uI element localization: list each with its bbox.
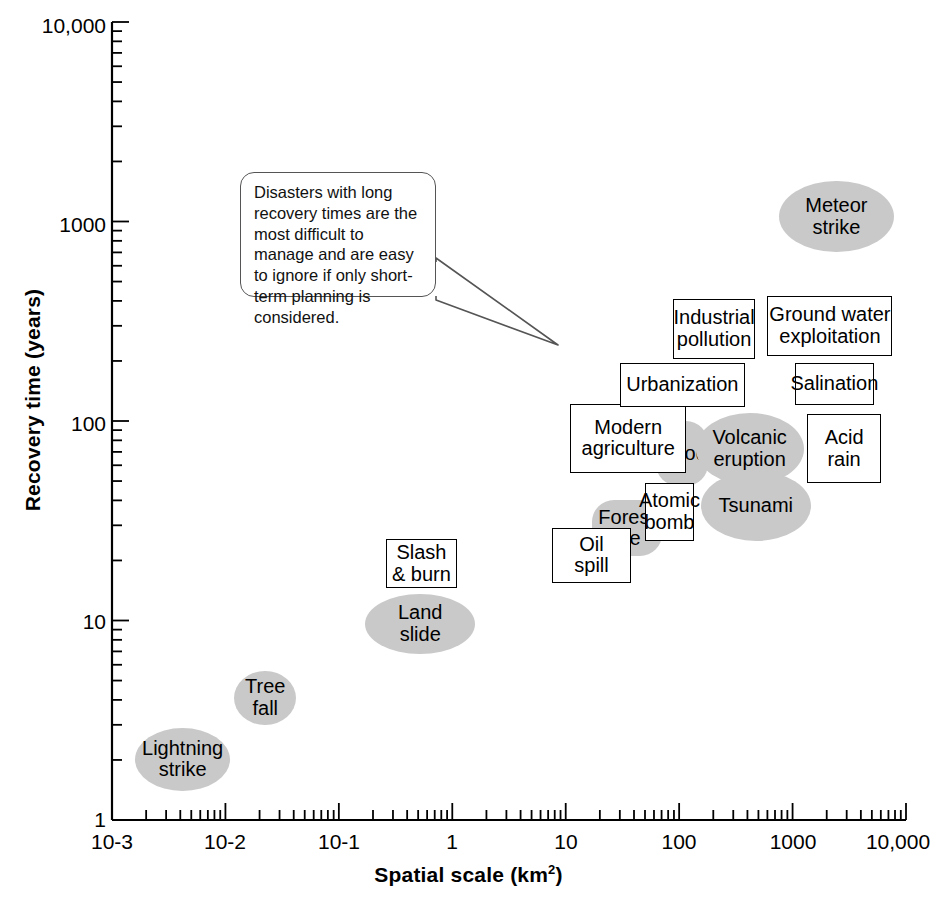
data-item-ground-water-exploitation: Ground waterexploitation	[767, 296, 892, 356]
data-item-label-line: Salination	[790, 373, 878, 395]
x-axis-ticks	[112, 803, 906, 820]
data-item-label-line: Urbanization	[626, 374, 738, 396]
data-item-label-line: Lightning	[142, 738, 223, 760]
x-tick-label-1000: 1000	[770, 830, 817, 854]
data-item-label: Tsunami	[719, 495, 793, 517]
data-item-label: Salination	[790, 373, 878, 395]
data-item-label-line: fall	[245, 698, 285, 720]
data-item-label: Modernagriculture	[582, 417, 675, 460]
y-tick-label-10: 10	[0, 610, 106, 634]
x-tick-label-1: 1	[446, 830, 458, 854]
data-item-industrial-pollution: Industrialpollution	[673, 299, 756, 359]
callout-line-2: recovery times are the	[254, 204, 417, 222]
data-item-urbanization: Urbanization	[620, 363, 745, 407]
x-axis-title-tail: )	[556, 863, 563, 886]
data-item-slash-burn: Slash& burn	[386, 539, 457, 588]
x-tick-label-10-3: 10-3	[91, 830, 133, 854]
data-item-tree-fall: Treefall	[234, 671, 296, 725]
axis-lines	[112, 22, 906, 820]
data-item-label: Acidrain	[825, 427, 864, 470]
data-item-label-line: Oil	[574, 534, 608, 556]
data-item-label-line: Tsunami	[719, 495, 793, 517]
x-tick-label-100: 100	[661, 830, 696, 854]
data-item-acid-rain: Acidrain	[807, 414, 880, 482]
data-item-label: Meteorstrike	[805, 195, 867, 238]
x-tick-label-10: 10	[554, 830, 577, 854]
data-item-lightning-strike: Lightningstrike	[135, 728, 230, 791]
callout-line-1: Disasters with long	[254, 183, 392, 201]
data-item-label-line: eruption	[712, 449, 787, 471]
data-item-label-line: Meteor	[805, 195, 867, 217]
y-tick-label-1000: 1000	[0, 213, 106, 237]
data-item-label: Urbanization	[626, 374, 738, 396]
data-item-label: Lightningstrike	[142, 738, 223, 781]
data-item-meteor-strike: Meteorstrike	[779, 181, 894, 253]
data-item-label-line: & burn	[392, 564, 451, 586]
data-item-atomic-bomb: Atomicbomb	[645, 483, 694, 541]
data-item-label-line: Industrial	[674, 307, 755, 329]
data-item-label-line: exploitation	[769, 326, 890, 348]
y-axis-title: Recovery time (years)	[21, 250, 45, 550]
data-item-label: Volcaniceruption	[712, 427, 787, 470]
data-item-label-line: Land	[398, 602, 443, 624]
x-tick-label-10-1: 10-1	[318, 830, 360, 854]
data-item-label-line: Acid	[825, 427, 864, 449]
data-item-label-line: strike	[805, 217, 867, 239]
data-item-label-line: pollution	[674, 329, 755, 351]
x-tick-label-10000: 10,000	[866, 830, 930, 854]
data-item-modern-agriculture: Modernagriculture	[570, 404, 686, 473]
callout-annotation: Disasters with long recovery times are t…	[240, 172, 436, 297]
data-item-label-line: rain	[825, 449, 864, 471]
data-item-label-line: bomb	[639, 512, 700, 534]
data-item-label: Treefall	[245, 676, 285, 719]
x-axis-title-base: Spatial scale (km	[374, 863, 548, 886]
data-item-label-line: strike	[142, 759, 223, 781]
data-item-label: Slash& burn	[392, 542, 451, 585]
data-item-salination: Salination	[795, 363, 874, 406]
x-axis-title: Spatial scale (km2)	[0, 862, 937, 887]
y-tick-label-10000: 10,000	[0, 14, 106, 38]
y-axis-ticks	[112, 22, 129, 820]
data-item-label: Landslide	[398, 602, 443, 645]
data-item-label: Ground waterexploitation	[769, 304, 890, 347]
data-item-label-line: agriculture	[582, 438, 675, 460]
data-item-label-line: Ground water	[769, 304, 890, 326]
data-item-label: Industrialpollution	[674, 307, 755, 350]
x-axis-title-superscript: 2	[548, 862, 555, 877]
data-item-label-line: Tree	[245, 676, 285, 698]
x-tick-label-10-2: 10-2	[204, 830, 246, 854]
data-item-label-line: slide	[398, 624, 443, 646]
data-item-label-line: Modern	[582, 417, 675, 439]
data-item-label: Oilspill	[574, 534, 608, 577]
data-item-label: Atomicbomb	[639, 490, 700, 533]
data-item-label-line: Volcanic	[712, 427, 787, 449]
recovery-time-vs-spatial-scale-chart: 10,000 1000 100 10 1 10-3 10-2 10-1 1 10…	[0, 0, 937, 898]
y-tick-label-100: 100	[0, 412, 106, 436]
data-item-tsunami: Tsunami	[701, 471, 811, 541]
data-item-label-line: Atomic	[639, 490, 700, 512]
data-item-land-slide: Landslide	[365, 594, 475, 654]
y-tick-label-1: 1	[0, 808, 106, 832]
data-item-oil-spill: Oilspill	[552, 528, 632, 582]
data-item-label-line: spill	[574, 555, 608, 577]
data-item-label-line: Slash	[392, 542, 451, 564]
